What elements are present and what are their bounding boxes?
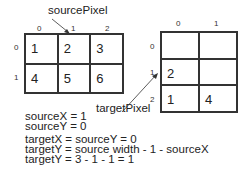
target-cell (199, 32, 237, 59)
target-col-index: 1 (214, 19, 218, 28)
source-col-index: 0 (37, 24, 41, 33)
target-cell (199, 59, 237, 86)
target-cell: 2 (161, 59, 199, 86)
target-cell (161, 32, 199, 59)
source-row-index: 0 (14, 43, 18, 52)
source-cell: 5 (58, 64, 91, 94)
source-grid: 1 2 3 4 5 6 (24, 33, 124, 94)
source-col-index: 2 (105, 24, 109, 33)
source-cell: 3 (90, 34, 123, 64)
target-cell: 4 (199, 85, 237, 112)
source-col-index: 1 (71, 24, 75, 33)
equation-line: targetY = 3 - 1 - 1 = 1 (25, 154, 134, 164)
source-cell: 6 (90, 64, 123, 94)
source-cell: 2 (58, 34, 91, 64)
target-row-index: 0 (150, 42, 154, 51)
target-row-index: 2 (150, 95, 154, 104)
target-row-index: 1 (150, 68, 154, 77)
equation-line: sourceY = 0 (25, 121, 86, 131)
target-pixel-label: targetPixel (96, 102, 150, 114)
source-row-index: 1 (14, 73, 18, 82)
target-col-index: 0 (176, 19, 180, 28)
source-cell: 4 (25, 64, 58, 94)
target-cell: 1 (161, 85, 199, 112)
target-grid: 2 1 4 (160, 31, 238, 113)
source-cell: 1 (25, 34, 58, 64)
